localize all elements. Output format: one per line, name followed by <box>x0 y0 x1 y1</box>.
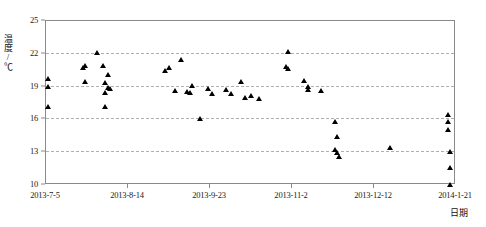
data-point <box>336 154 342 159</box>
data-point <box>238 79 244 84</box>
y-tick-label-25: 25 <box>30 15 38 25</box>
data-point <box>209 91 215 96</box>
data-point <box>228 91 234 96</box>
data-point <box>447 165 453 170</box>
x-tick-label-3: 2013-11-2 <box>274 190 307 200</box>
data-point <box>94 50 100 55</box>
y-tick-label-10: 10 <box>30 179 38 189</box>
x-tick-mark-2 <box>209 184 210 188</box>
data-point <box>447 149 453 154</box>
data-point <box>189 83 195 88</box>
data-point <box>82 63 88 68</box>
y-tick-label-16: 16 <box>30 113 38 123</box>
data-point <box>82 79 88 84</box>
plot-area <box>45 20 455 184</box>
y-tick-label-19: 19 <box>30 81 38 91</box>
data-point <box>305 87 311 92</box>
data-point <box>256 96 262 101</box>
y-tick-label-13: 13 <box>30 146 38 156</box>
data-point <box>387 145 393 150</box>
data-point <box>105 72 111 77</box>
y-tick-label-22: 22 <box>30 48 38 58</box>
data-point <box>102 104 108 109</box>
x-tick-label-0: 2013-7-5 <box>30 190 60 200</box>
temperature-scatter-chart: 温度/℃ 101316192225 2013-7-52013-8-142013-… <box>0 0 486 227</box>
data-point <box>445 112 451 117</box>
x-axis-title: 日期 <box>450 206 468 219</box>
data-point <box>334 134 340 139</box>
data-point <box>318 88 324 93</box>
data-point <box>178 57 184 62</box>
data-point <box>301 78 307 83</box>
x-tick-mark-3 <box>291 184 292 188</box>
x-tick-label-5: 2014-1-21 <box>438 190 472 200</box>
gridline-16 <box>46 118 454 119</box>
data-point <box>45 84 51 89</box>
data-point <box>166 65 172 70</box>
data-point <box>248 93 254 98</box>
data-point <box>205 86 211 91</box>
data-point <box>332 119 338 124</box>
x-tick-mark-4 <box>373 184 374 188</box>
x-tick-label-1: 2013-8-14 <box>110 190 144 200</box>
data-point <box>445 127 451 132</box>
data-point <box>172 88 178 93</box>
data-point <box>45 104 51 109</box>
data-point <box>100 63 106 68</box>
data-point <box>45 76 51 81</box>
data-point <box>447 182 453 187</box>
data-point <box>187 90 193 95</box>
data-point <box>102 90 108 95</box>
x-tick-mark-1 <box>127 184 128 188</box>
data-point <box>285 66 291 71</box>
data-point <box>285 49 291 54</box>
gridline-13 <box>46 151 454 152</box>
data-point <box>242 95 248 100</box>
x-tick-label-2: 2013-9-23 <box>192 190 226 200</box>
data-point <box>197 116 203 121</box>
x-tick-label-4: 2013-12-12 <box>354 190 392 200</box>
gridline-22 <box>46 53 454 54</box>
data-point <box>445 119 451 124</box>
